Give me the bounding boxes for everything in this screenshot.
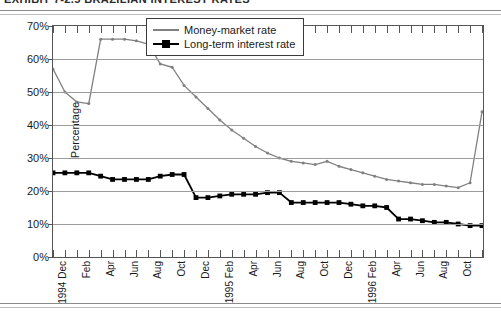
data-point-marker bbox=[217, 194, 222, 199]
y-axis-tick-label: 50% bbox=[27, 86, 49, 98]
data-point-marker bbox=[87, 102, 90, 105]
data-point-marker bbox=[313, 200, 318, 205]
series-line bbox=[53, 39, 482, 188]
data-point-marker bbox=[360, 203, 365, 208]
x-axis-tick-mark bbox=[351, 250, 352, 257]
legend-item-long-term: Long-term interest rate bbox=[153, 37, 295, 51]
x-axis-tick-mark bbox=[53, 26, 54, 33]
data-point-marker bbox=[206, 195, 211, 200]
x-axis-tick-mark bbox=[303, 250, 304, 257]
data-point-marker bbox=[254, 145, 257, 148]
data-point-marker bbox=[230, 128, 233, 131]
x-axis-tick-mark bbox=[315, 250, 316, 257]
x-axis-tick-mark bbox=[89, 250, 90, 257]
x-axis-tick-label: Apr bbox=[391, 261, 402, 277]
data-point-marker bbox=[134, 177, 139, 182]
legend-item-money-market: Money-market rate bbox=[153, 23, 295, 37]
data-point-marker bbox=[409, 181, 412, 184]
x-axis-tick-label: Apr bbox=[248, 261, 259, 277]
x-axis-tick-mark bbox=[148, 250, 149, 257]
x-axis-tick-mark bbox=[196, 250, 197, 257]
x-axis-tick-label: Jun bbox=[272, 261, 283, 277]
x-axis-tick-mark bbox=[375, 26, 376, 33]
legend-swatch-square-icon bbox=[153, 38, 179, 50]
y-axis-tick-mark bbox=[48, 257, 53, 258]
y-axis-tick-label: 20% bbox=[27, 185, 49, 197]
data-point-marker bbox=[53, 170, 55, 175]
x-axis-tick-mark bbox=[339, 250, 340, 257]
data-point-marker bbox=[206, 107, 209, 110]
data-point-marker bbox=[397, 180, 400, 183]
x-axis-tick-mark bbox=[315, 26, 316, 33]
data-point-marker bbox=[98, 174, 103, 179]
x-axis-tick-mark bbox=[136, 250, 137, 257]
data-point-marker bbox=[290, 160, 293, 163]
x-axis-tick-mark bbox=[53, 250, 54, 257]
data-point-marker bbox=[385, 178, 388, 181]
x-axis-tick-mark bbox=[434, 250, 435, 257]
plot-area: Percentage 0%10%20%30%40%50%60%70% 1994 … bbox=[52, 25, 484, 258]
data-point-marker bbox=[53, 67, 55, 70]
data-point-marker bbox=[384, 205, 389, 210]
data-point-marker bbox=[314, 163, 317, 166]
y-axis-tick-label: 60% bbox=[27, 53, 49, 65]
x-axis-tick-mark bbox=[172, 250, 173, 257]
x-axis-tick-mark bbox=[220, 250, 221, 257]
x-axis-tick-label: 1995 Feb bbox=[224, 261, 235, 303]
x-axis-tick-label: Jun bbox=[129, 261, 140, 277]
x-axis-tick-mark bbox=[101, 26, 102, 33]
legend-label-long-term: Long-term interest rate bbox=[184, 38, 295, 50]
series-line bbox=[53, 173, 482, 226]
data-point-marker bbox=[123, 38, 126, 41]
chart-title: EXHIBIT 7-2.5 BRAZILIAN INTEREST RATES bbox=[4, 0, 250, 5]
x-axis-tick-label: Feb bbox=[81, 261, 92, 278]
x-axis-tick-mark bbox=[291, 250, 292, 257]
data-point-marker bbox=[420, 218, 425, 223]
legend-label-money-market: Money-market rate bbox=[184, 24, 276, 36]
y-axis-tick-mark bbox=[48, 224, 53, 225]
data-point-marker bbox=[99, 38, 102, 41]
x-axis-tick-mark bbox=[125, 26, 126, 33]
data-point-marker bbox=[253, 192, 258, 197]
title-divider bbox=[0, 10, 501, 15]
data-point-marker bbox=[301, 200, 306, 205]
x-axis-tick-mark bbox=[256, 250, 257, 257]
x-axis-tick-mark bbox=[113, 26, 114, 33]
x-axis-tick-mark bbox=[375, 250, 376, 257]
data-point-marker bbox=[289, 200, 294, 205]
data-point-marker bbox=[146, 177, 151, 182]
data-point-marker bbox=[229, 192, 234, 197]
data-point-marker bbox=[349, 168, 352, 171]
data-point-marker bbox=[266, 152, 269, 155]
x-axis-tick-mark bbox=[482, 250, 483, 257]
y-axis-title: Percentage bbox=[69, 70, 81, 190]
data-point-marker bbox=[433, 183, 436, 186]
x-axis-tick-mark bbox=[387, 26, 388, 33]
x-axis-tick-mark bbox=[232, 250, 233, 257]
data-point-marker bbox=[338, 165, 341, 168]
x-axis-tick-mark bbox=[339, 26, 340, 33]
x-axis-tick-mark bbox=[184, 250, 185, 257]
data-point-marker bbox=[408, 217, 413, 222]
y-axis-tick-label: 10% bbox=[27, 218, 49, 230]
data-point-marker bbox=[218, 119, 221, 122]
x-axis-tick-label: Oct bbox=[462, 261, 473, 277]
gridline bbox=[53, 224, 483, 225]
gridline bbox=[53, 125, 483, 126]
gridline bbox=[53, 158, 483, 159]
x-axis-tick-label: Dec bbox=[200, 261, 211, 279]
x-axis-tick-mark bbox=[113, 250, 114, 257]
x-axis-tick-mark bbox=[399, 250, 400, 257]
data-point-marker bbox=[170, 172, 175, 177]
data-point-marker bbox=[421, 183, 424, 186]
x-axis-tick-mark bbox=[279, 250, 280, 257]
x-axis-tick-mark bbox=[458, 26, 459, 33]
data-point-marker bbox=[325, 200, 330, 205]
x-axis-tick-mark bbox=[89, 26, 90, 33]
y-axis-tick-mark bbox=[48, 125, 53, 126]
x-axis-tick-mark bbox=[327, 250, 328, 257]
data-point-marker bbox=[302, 161, 305, 164]
x-axis-tick-mark bbox=[470, 26, 471, 33]
data-point-marker bbox=[171, 66, 174, 69]
x-axis-tick-label: Jun bbox=[415, 261, 426, 277]
